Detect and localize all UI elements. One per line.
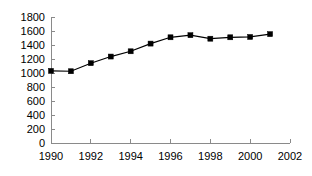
y-tick-label: 800 (27, 81, 45, 93)
y-tick-label: 0 (39, 137, 45, 149)
series-markers (49, 32, 273, 74)
x-tick-label: 2000 (238, 150, 262, 162)
y-tick-label: 1400 (21, 39, 45, 51)
y-tick-label: 400 (27, 109, 45, 121)
data-point-marker (208, 36, 213, 41)
data-point-marker (248, 34, 253, 39)
data-point-marker (188, 33, 193, 38)
y-tick-label: 200 (27, 123, 45, 135)
data-point-marker (268, 32, 273, 37)
y-tick-label: 1200 (21, 53, 45, 65)
x-axis-tick-labels: 1990199219941996199820002002 (39, 150, 302, 162)
data-point-marker (108, 54, 113, 59)
y-tick-label: 600 (27, 95, 45, 107)
y-axis-tick-labels: 020040060080010001200140016001800 (21, 11, 45, 149)
x-tick-label: 1990 (39, 150, 63, 162)
y-tick-label: 1600 (21, 25, 45, 37)
data-point-marker (168, 35, 173, 40)
x-tick-label: 2002 (278, 150, 302, 162)
data-point-marker (49, 68, 54, 73)
y-tick-label: 1000 (21, 67, 45, 79)
data-point-marker (128, 49, 133, 54)
x-tick-label: 1998 (198, 150, 222, 162)
data-point-marker (68, 69, 73, 74)
line-chart: 020040060080010001200140016001800 199019… (0, 0, 312, 176)
data-point-marker (88, 61, 93, 66)
data-point-marker (148, 41, 153, 46)
y-axis-tick-marks (51, 17, 55, 143)
data-point-marker (228, 35, 233, 40)
x-tick-label: 1996 (158, 150, 182, 162)
series-line (51, 34, 270, 71)
y-tick-label: 1800 (21, 11, 45, 23)
x-tick-label: 1992 (79, 150, 103, 162)
x-tick-label: 1994 (118, 150, 142, 162)
x-axis-tick-marks (51, 139, 290, 143)
chart-canvas: 020040060080010001200140016001800 199019… (0, 0, 312, 176)
